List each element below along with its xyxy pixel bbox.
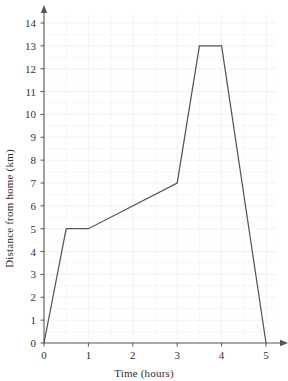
x-tick-label: 3: [174, 349, 180, 361]
x-tick-label: 5: [263, 349, 269, 361]
x-tick-label: 1: [86, 349, 92, 361]
axis-lines: [41, 5, 288, 346]
x-tick-label: 2: [130, 349, 136, 361]
x-tick-label: 0: [41, 349, 47, 361]
y-axis-title: Distance from home (km): [0, 18, 18, 381]
plot-area: [0, 0, 288, 381]
distance-time-chart: 01234567891011121314 012345 Distance fro…: [0, 0, 288, 381]
x-tick-label: 4: [219, 349, 225, 361]
axis-ticks: [41, 23, 267, 347]
x-axis-title: Time (hours): [0, 367, 288, 379]
